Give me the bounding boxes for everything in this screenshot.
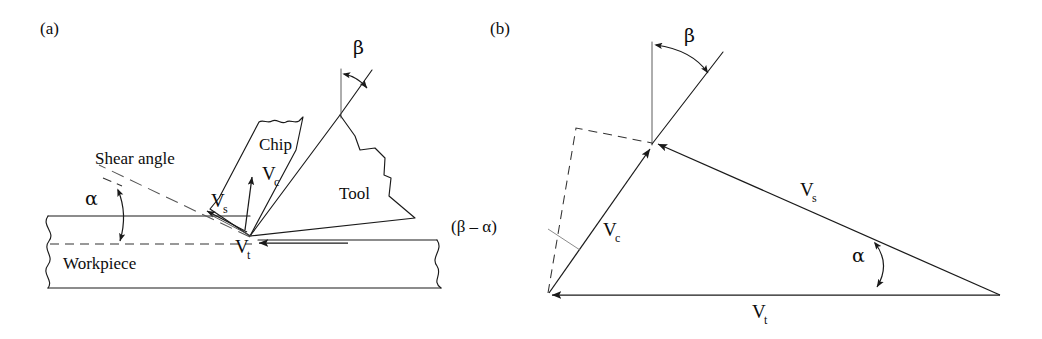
- tool-label: Tool: [339, 184, 370, 203]
- workpiece-right-break-edge: [435, 240, 441, 288]
- panel-a-tag: (a): [40, 19, 59, 38]
- vs-label-b-sub: s: [812, 191, 817, 205]
- figure-container: (a) Shear angle α β Chip Tool Workpiece …: [0, 0, 1042, 339]
- vc-label-a-sub: c: [274, 175, 279, 189]
- vs-label-a-sub: s: [223, 202, 228, 216]
- alpha-label-b: α: [852, 244, 865, 266]
- rake-direction-line-b: [652, 52, 723, 144]
- workpiece-label: Workpiece: [63, 254, 136, 273]
- figure-svg: (a) Shear angle α β Chip Tool Workpiece …: [0, 0, 1042, 339]
- vs-vector-b: [658, 144, 1000, 295]
- panel-b-tag: (b): [490, 19, 510, 38]
- vs-label-b: V s: [800, 179, 817, 205]
- vt-label-b: V t: [752, 301, 768, 327]
- panel-a-group: (a) Shear angle α β Chip Tool Workpiece …: [40, 19, 441, 288]
- vc-label-b: V c: [603, 219, 620, 245]
- vs-label-a: V s: [211, 190, 228, 216]
- alpha-angle-arc-b: [875, 243, 884, 287]
- panel-b-group: (b) β α (β – α) V c V s V t: [451, 19, 1000, 327]
- beta-minus-alpha-label: (β – α): [451, 217, 497, 236]
- vc-vector-b: [549, 149, 650, 293]
- vc-arrow-a: [245, 177, 252, 230]
- beta-label-b: β: [684, 24, 695, 46]
- alpha-label-a: α: [85, 187, 98, 209]
- vc-label-b-sub: c: [615, 231, 620, 245]
- beta-angle-arc-b: [656, 45, 708, 73]
- tool-rake-face-extension: [340, 70, 372, 115]
- vt-label-a-sub: t: [247, 248, 251, 262]
- vc-label-a: V c: [262, 163, 279, 189]
- shear-angle-label: Shear angle: [95, 149, 175, 168]
- beta-minus-alpha-leader: [548, 229, 580, 250]
- beta-label-a: β: [353, 36, 364, 58]
- workpiece-left-break-edge: [46, 216, 51, 288]
- vt-label-a: V t: [235, 236, 251, 262]
- chip-label: Chip: [259, 135, 292, 154]
- construction-dashed-b: [548, 128, 652, 293]
- shear-angle-leader: [103, 178, 122, 186]
- vt-label-b-sub: t: [764, 313, 768, 327]
